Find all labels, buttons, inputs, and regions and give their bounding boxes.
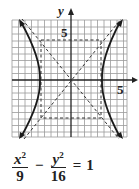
hyperbola-equation: x2 9 − y2 16 = 1 — [10, 146, 94, 184]
x-denominator: 9 — [16, 168, 24, 184]
minus-sign: − — [35, 157, 44, 174]
right-hand-side: 1 — [86, 157, 94, 174]
y-exponent: 2 — [59, 150, 64, 160]
fraction-x: x2 9 — [12, 147, 28, 184]
asymptote-positive-slope — [24, 19, 121, 139]
y-denominator: 16 — [51, 168, 66, 184]
fraction-y: y2 16 — [51, 147, 66, 184]
x-exponent: 2 — [22, 150, 27, 160]
y-axis-arrow-icon — [68, 8, 74, 15]
y-tick-label: 5 — [61, 25, 68, 40]
equals-sign: = — [73, 157, 82, 174]
y-axis-label: y — [56, 3, 64, 18]
x-variable: x — [14, 151, 22, 167]
x-tick-label: 5 — [117, 82, 124, 97]
x-axis-arrow-icon — [132, 77, 138, 83]
hyperbola-graph: y 5 5 — [0, 0, 139, 140]
